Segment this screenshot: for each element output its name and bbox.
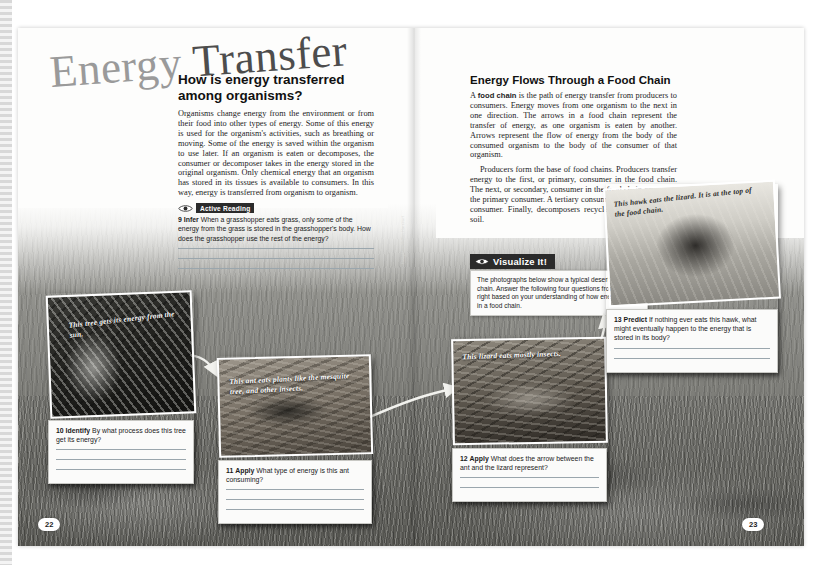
answer-lines-11[interactable] — [226, 489, 364, 510]
question-verb-predict: Predict — [624, 316, 647, 323]
question-number-10: 10 — [56, 427, 64, 434]
answer-line[interactable] — [178, 248, 374, 249]
question-11-text: 11 Apply What type of energy is this ant… — [226, 466, 364, 484]
question-box-13: 13 Predict If nothing ever eats this haw… — [606, 309, 778, 373]
question-number-12: 12 — [460, 455, 468, 462]
ant-photo-caption: This ant eats plants like the mesquite t… — [229, 371, 352, 396]
para1-post: is the path of energy transfer from prod… — [470, 91, 677, 159]
right-body-paragraph-1: A food chain is the path of energy trans… — [470, 91, 677, 160]
question-verb-apply-11: Apply — [235, 467, 254, 474]
visualize-it-tab: Visualize It! — [470, 254, 555, 269]
question-number-9: 9 — [178, 216, 182, 223]
question-12-text: 12 Apply What does the arrow between the… — [460, 454, 599, 472]
answer-line[interactable] — [226, 499, 364, 500]
answer-line[interactable] — [226, 489, 364, 490]
active-reading-badge: Active Reading — [196, 203, 254, 213]
glossary-term-food-chain: food chain — [478, 91, 517, 100]
answer-lines-9[interactable] — [178, 248, 374, 269]
page-number-right: 23 — [742, 518, 764, 531]
page-number-left: 22 — [38, 518, 60, 531]
answer-line[interactable] — [226, 509, 364, 510]
lizard-photo-caption: This lizard eats mostly insects. — [462, 348, 594, 362]
page-title-part-1: Energy — [48, 37, 183, 97]
question-box-12: 12 Apply What does the arrow between the… — [452, 448, 607, 502]
answer-lines-13[interactable] — [614, 348, 770, 359]
book-spread: Energy Transfer How is energy transferre… — [18, 28, 804, 546]
lizard-photo: This lizard eats mostly insects. — [451, 337, 608, 446]
question-box-11: 11 Apply What type of energy is this ant… — [218, 460, 372, 524]
answer-line[interactable] — [178, 268, 374, 269]
left-body-paragraph-1: Organisms change energy from the environ… — [178, 109, 374, 198]
right-section-heading: Energy Flows Through a Food Chain — [470, 74, 677, 87]
answer-line[interactable] — [56, 469, 186, 470]
question-13-text: 13 Predict If nothing ever eats this haw… — [614, 315, 770, 343]
question-verb-apply-12: Apply — [470, 455, 489, 462]
photo-panel-ant: This ant eats plants like the mesquite t… — [218, 356, 372, 524]
tree-photo-caption: This tree gets its energy from the sun. — [68, 309, 177, 340]
left-section-heading: How is energy transferred among organism… — [178, 72, 374, 103]
question-10-text: 10 Identify By what process does this tr… — [56, 426, 186, 444]
question-box-10: 10 Identify By what process does this tr… — [48, 420, 194, 484]
photo-panel-tree: This tree gets its energy from the sun. … — [48, 293, 194, 484]
answer-lines-10[interactable] — [56, 449, 186, 470]
eye-icon — [475, 257, 489, 266]
visualize-it-label: Visualize It! — [493, 256, 547, 267]
hawk-photo-caption: This hawk eats the lizard. It is at the … — [613, 185, 756, 219]
question-verb-infer: Infer — [184, 216, 199, 223]
answer-line[interactable] — [56, 459, 186, 460]
photo-credit: Houghton Mifflin Harcourt — [401, 216, 405, 264]
hawk-photo: This hawk eats the lizard. It is at the … — [603, 180, 781, 308]
answer-line[interactable] — [56, 449, 186, 450]
active-reading-row: Active Reading — [178, 203, 374, 213]
answer-line[interactable] — [460, 487, 599, 488]
question-verb-identify: Identify — [66, 427, 91, 434]
question-number-13: 13 — [614, 316, 622, 323]
question-body-9: When a grasshopper eats grass, only some… — [178, 216, 371, 241]
para1-pre: A — [470, 91, 478, 100]
answer-line[interactable] — [178, 258, 374, 259]
question-number-11: 11 — [226, 467, 233, 474]
left-text-column: How is energy transferred among organism… — [178, 72, 374, 278]
page-root: Energy Transfer How is energy transferre… — [0, 0, 821, 565]
tree-photo: This tree gets its energy from the sun. — [46, 290, 197, 419]
photo-panel-lizard: This lizard eats mostly insects. 12 Appl… — [452, 338, 607, 502]
photo-panel-hawk: This hawk eats the lizard. It is at the … — [606, 184, 778, 373]
eye-icon — [178, 204, 193, 213]
answer-line[interactable] — [614, 358, 770, 359]
active-reading-question: 9 Infer When a grasshopper eats grass, o… — [178, 215, 374, 243]
answer-lines-12[interactable] — [460, 477, 599, 488]
ant-photo: This ant eats plants like the mesquite t… — [217, 354, 373, 458]
book-binding-strip — [0, 0, 12, 565]
answer-line[interactable] — [614, 348, 770, 349]
answer-line[interactable] — [460, 477, 599, 478]
